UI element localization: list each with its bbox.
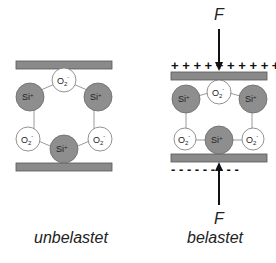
silicon-atom-bottom: Si+ <box>205 126 233 154</box>
silicon-atom-left: Si+ <box>16 83 44 111</box>
silicon-atom-right: Si+ <box>84 83 112 111</box>
oxygen-atom-left: O2- <box>174 128 196 150</box>
panel-loaded: F + + + + + + + + + + O2- Si+ Si+ <box>171 6 276 246</box>
caption-unloaded: unbelastet <box>34 229 108 246</box>
top-electrode-plate <box>171 72 267 80</box>
oxygen-atom-top: O2- <box>52 68 76 92</box>
bottom-electrode-plate <box>16 163 112 171</box>
negative-charges: - - - - - - - - - <box>171 162 239 177</box>
oxygen-atom-right: O2- <box>242 128 264 150</box>
silicon-atom-right: Si+ <box>239 85 267 113</box>
oxygen-atom-right: O2- <box>88 127 112 151</box>
caption-loaded: belastet <box>187 229 244 246</box>
oxygen-atom-left: O2- <box>16 127 40 151</box>
silicon-atom-bottom: Si+ <box>50 135 78 163</box>
force-label-top: F <box>214 6 225 23</box>
bottom-electrode-plate <box>171 154 267 162</box>
oxygen-atom-top: O2- <box>207 80 231 104</box>
positive-charges: + + + + + + + + + + <box>171 58 276 73</box>
piezo-effect-diagram: O2- Si+ Si+ O2- O2- Si+ unbelastet F + + <box>0 0 276 263</box>
silicon-atom-left: Si+ <box>172 85 200 113</box>
panel-unloaded: O2- Si+ Si+ O2- O2- Si+ unbelastet <box>16 61 112 246</box>
force-label-bottom: F <box>214 210 225 227</box>
